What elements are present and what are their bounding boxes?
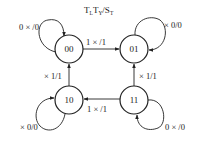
state-11: 11: [120, 86, 148, 114]
diagram-title: TLTY/ST: [84, 5, 114, 16]
state-10: 10: [55, 86, 83, 114]
transition-10-00: × 1/1: [44, 64, 69, 86]
transition-11-10: 1 × /1: [84, 99, 120, 114]
transition-10-00-label: × 1/1: [44, 71, 62, 81]
transition-11-01-label: × 1/1: [139, 71, 157, 81]
state-diagram: TLTY/ST 00 01 10 11 0 × /0 1 × /1 × 0/0 …: [0, 0, 203, 142]
state-01: 01: [120, 35, 148, 63]
state-11-label: 11: [130, 95, 139, 105]
transition-10-10-label: × 0/0: [20, 122, 38, 132]
transition-00-00-label: 0 × /0: [19, 22, 39, 32]
state-00-label: 00: [65, 44, 75, 54]
state-10-label: 10: [65, 95, 75, 105]
state-01-label: 01: [130, 44, 139, 54]
transition-01-01-label: × 0/0: [164, 20, 182, 30]
transition-11-10-label: 1 × /1: [87, 104, 107, 114]
transition-00-01-label: 1 × /1: [86, 37, 106, 47]
transition-11-11-label: 0 × /0: [165, 122, 185, 132]
state-00: 00: [55, 35, 83, 63]
transition-11-01: × 1/1: [134, 64, 157, 86]
transition-00-01: 1 × /1: [83, 37, 119, 49]
